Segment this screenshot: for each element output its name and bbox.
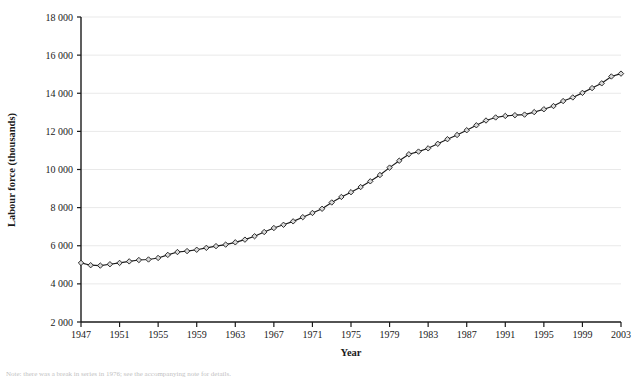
x-tick-label: 1955	[148, 329, 168, 340]
data-point-marker	[551, 103, 556, 108]
y-tick-label: 6 000	[51, 240, 74, 251]
x-tick-label: 1947	[71, 329, 91, 340]
data-point-marker	[78, 260, 83, 265]
data-point-marker	[155, 255, 160, 260]
data-point-marker	[474, 123, 479, 128]
x-tick-label: 1963	[225, 329, 245, 340]
data-point-marker	[281, 222, 286, 227]
x-axis-title: Year	[341, 347, 362, 358]
y-tick-label: 12 000	[46, 126, 74, 137]
data-point-marker	[310, 210, 315, 215]
data-point-marker	[184, 248, 189, 253]
data-point-marker	[271, 225, 276, 230]
y-axis-ticks-group: 2 0004 0006 0008 00010 00012 00014 00016…	[46, 12, 82, 328]
x-tick-label: 1979	[380, 329, 400, 340]
data-point-marker	[107, 262, 112, 267]
data-point-marker	[416, 149, 421, 154]
data-point-marker	[98, 263, 103, 268]
x-tick-label: 2003	[611, 329, 631, 340]
x-tick-label: 1967	[264, 329, 284, 340]
data-point-marker	[532, 109, 537, 114]
data-point-marker	[175, 249, 180, 254]
data-point-marker	[146, 257, 151, 262]
data-point-marker	[425, 146, 430, 151]
chart-footnote: Note: there was a break in series in 197…	[6, 369, 231, 379]
data-point-marker	[339, 194, 344, 199]
data-point-marker	[560, 98, 565, 103]
data-point-marker	[435, 141, 440, 146]
line-chart: 2 0004 0006 0008 00010 00012 00014 00016…	[0, 0, 638, 379]
data-point-marker	[233, 240, 238, 245]
data-point-marker	[136, 257, 141, 262]
data-point-marker	[503, 113, 508, 118]
data-point-marker	[493, 115, 498, 120]
data-point-marker	[117, 260, 122, 265]
y-tick-label: 4 000	[51, 278, 74, 289]
data-point-marker	[223, 242, 228, 247]
data-point-marker	[512, 112, 517, 117]
data-point-marker	[252, 234, 257, 239]
y-axis-title: Labour force (thousands)	[6, 113, 18, 227]
y-tick-label: 2 000	[51, 317, 74, 328]
x-tick-label: 1975	[341, 329, 361, 340]
y-tick-label: 10 000	[46, 164, 74, 175]
y-tick-label: 8 000	[51, 202, 74, 213]
gridlines-group	[81, 17, 621, 284]
x-tick-label: 1971	[302, 329, 322, 340]
data-point-marker	[262, 229, 267, 234]
chart-figure: 2 0004 0006 0008 00010 00012 00014 00016…	[0, 0, 638, 379]
x-axis-ticks-group: 1947195119551959196319671971197519791983…	[71, 322, 631, 340]
data-point-marker	[541, 107, 546, 112]
x-tick-label: 1999	[572, 329, 592, 340]
y-tick-label: 14 000	[46, 88, 74, 99]
data-point-marker	[127, 259, 132, 264]
x-tick-label: 1983	[418, 329, 438, 340]
y-tick-label: 18 000	[46, 12, 74, 23]
data-point-marker	[348, 189, 353, 194]
data-point-marker	[165, 252, 170, 257]
data-point-marker	[580, 90, 585, 95]
data-point-marker	[213, 243, 218, 248]
x-tick-label: 1959	[187, 329, 207, 340]
data-point-marker	[454, 132, 459, 137]
x-tick-label: 1995	[534, 329, 554, 340]
data-point-marker	[570, 95, 575, 100]
data-point-marker	[464, 128, 469, 133]
data-point-marker	[589, 85, 594, 90]
y-tick-label: 16 000	[46, 50, 74, 61]
data-point-marker	[445, 136, 450, 141]
x-tick-label: 1991	[495, 329, 515, 340]
x-tick-label: 1987	[457, 329, 477, 340]
x-tick-label: 1951	[110, 329, 130, 340]
data-point-marker	[522, 112, 527, 117]
data-point-marker	[88, 262, 93, 267]
data-point-marker	[242, 237, 247, 242]
data-point-marker	[618, 71, 623, 76]
data-point-marker	[483, 118, 488, 123]
data-point-marker	[194, 247, 199, 252]
data-point-marker	[290, 219, 295, 224]
data-point-marker	[300, 214, 305, 219]
data-point-marker	[358, 184, 363, 189]
